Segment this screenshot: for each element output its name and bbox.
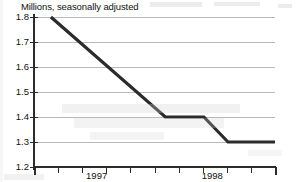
data-series-line (0, 0, 296, 182)
x-axis-tick (58, 167, 59, 173)
y-axis-tick (30, 42, 38, 43)
y-axis-tick (30, 17, 38, 18)
x-axis-tick (251, 167, 252, 173)
x-axis-tick (275, 167, 277, 175)
series-polyline (51, 17, 275, 142)
line-chart-figure: Millions, seasonally adjusted 1.81.71.61… (0, 0, 296, 182)
x-axis-tick (227, 167, 228, 173)
x-axis-tick (130, 167, 131, 173)
y-axis-tick (30, 117, 38, 118)
x-axis-tick (155, 167, 156, 173)
x-axis-tick-label: 1997 (86, 170, 107, 181)
x-axis-tick (34, 167, 36, 175)
x-axis-tick-label: 1998 (202, 170, 223, 181)
x-axis-tick (179, 167, 180, 173)
y-axis-tick (30, 92, 38, 93)
y-axis-tick (30, 67, 38, 68)
y-axis-tick (30, 142, 38, 143)
x-axis-tick (82, 167, 83, 173)
